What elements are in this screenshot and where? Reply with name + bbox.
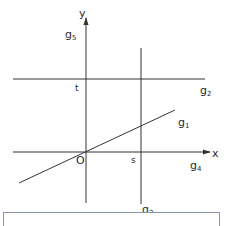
label-g2: g2 — [200, 84, 211, 98]
label-g1: g1 — [178, 116, 189, 130]
label-g4: g4 — [190, 159, 202, 173]
origin-label: O — [76, 154, 85, 167]
line-g1 — [19, 110, 175, 183]
label-g5: g5 — [65, 28, 76, 42]
s-label: s — [131, 155, 136, 165]
t-label: t — [75, 83, 79, 93]
x-axis-label: x — [212, 147, 219, 160]
coordinate-diagram: y x O s t g5 g2 g1 g4 g3 — [0, 0, 232, 226]
caption-box — [3, 212, 220, 226]
y-axis-label: y — [79, 7, 86, 20]
